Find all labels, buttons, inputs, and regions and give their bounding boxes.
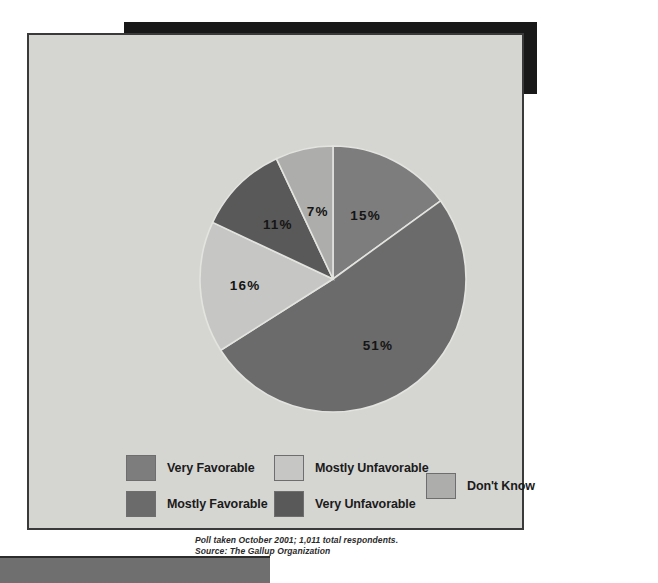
pie-chart-svg: 15%51%16%11%7% <box>199 145 467 413</box>
legend-label: Mostly Favorable <box>167 497 268 511</box>
legend-label: Mostly Unfavorable <box>315 461 429 475</box>
bottom-decorative-bar <box>0 556 270 583</box>
legend-swatch <box>126 491 156 517</box>
legend-item[interactable]: Very Favorable <box>126 455 255 481</box>
legend-swatch <box>126 455 156 481</box>
legend-swatch <box>274 455 304 481</box>
pie-slice-label: 16% <box>230 278 261 293</box>
legend-item[interactable]: Mostly Unfavorable <box>274 455 429 481</box>
legend-swatch <box>274 491 304 517</box>
pie-slice-label: 7% <box>307 204 329 219</box>
pie-slice-label: 11% <box>263 217 293 232</box>
chart-legend: Very FavorableMostly FavorableMostly Unf… <box>126 455 526 523</box>
legend-item[interactable]: Don't Know <box>426 473 535 499</box>
pie-chart: 15%51%16%11%7% <box>199 145 467 413</box>
chart-panel: 15%51%16%11%7% Very FavorableMostly Favo… <box>27 33 524 530</box>
legend-item[interactable]: Mostly Favorable <box>126 491 268 517</box>
legend-label: Very Favorable <box>167 461 255 475</box>
legend-item[interactable]: Very Unfavorable <box>274 491 416 517</box>
source-note: Poll taken October 2001; 1,011 total res… <box>195 535 398 557</box>
pie-slice-label: 15% <box>350 208 381 223</box>
legend-label: Don't Know <box>467 479 535 493</box>
legend-label: Very Unfavorable <box>315 497 416 511</box>
legend-swatch <box>426 473 456 499</box>
pie-slice-label: 51% <box>363 338 394 353</box>
